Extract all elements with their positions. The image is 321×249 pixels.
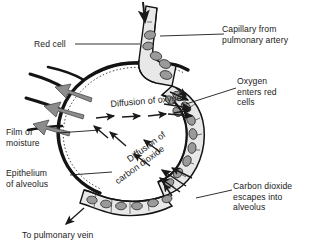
label-red-cell: Red cell <box>34 39 66 50</box>
label-to-pulmonary-vein: To pulmonary vein <box>22 230 93 241</box>
label-oxygen-enters-red-cells: Oxygen enters red cells <box>237 76 277 108</box>
label-carbon-dioxide-escapes-into-alveolus: Carbon dioxide escapes into alveolus <box>233 181 292 213</box>
label-capillary-from-pulmonary-artery: Capillary from pulmonary artery <box>222 24 288 45</box>
label-epithelium-of-alveolus: Epithelium of alveolus <box>6 168 48 189</box>
label-film-of-moisture: Film of moisture <box>6 127 40 148</box>
